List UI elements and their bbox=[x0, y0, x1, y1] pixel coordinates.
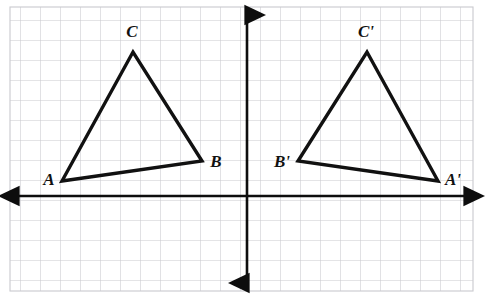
vertex-label-a-prime: A' bbox=[444, 170, 461, 189]
geometry-figure: A B C A' B' C' bbox=[0, 0, 485, 307]
vertex-label-c: C bbox=[126, 22, 138, 41]
coordinate-plane-svg: A B C A' B' C' bbox=[0, 0, 485, 307]
vertex-label-b-prime: B' bbox=[273, 152, 290, 171]
vertex-label-b: B bbox=[209, 152, 221, 171]
vertex-label-c-prime: C' bbox=[358, 22, 374, 41]
vertex-label-a: A bbox=[42, 170, 54, 189]
